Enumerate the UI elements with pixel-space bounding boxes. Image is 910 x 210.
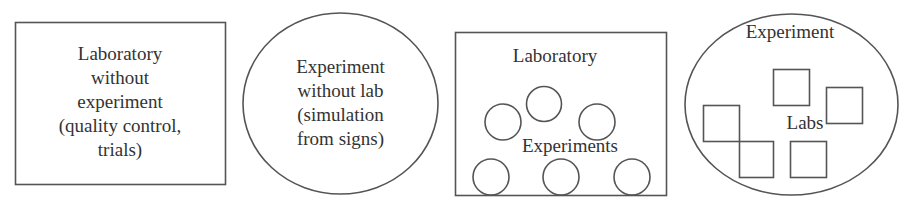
label-line: trials) xyxy=(15,138,225,162)
label-line: (quality control, xyxy=(15,114,225,138)
experiments-label: Experiments xyxy=(505,134,635,158)
experiment-circle xyxy=(527,87,562,122)
labs-label: Labs xyxy=(770,111,840,135)
label-line: (simulation xyxy=(243,103,438,127)
experiment-circle xyxy=(614,159,650,195)
lab-square xyxy=(774,70,810,106)
experiment-circle xyxy=(543,159,579,195)
lab-without-experiment-label: Laboratory without experiment (quality c… xyxy=(15,42,225,162)
label-line: without lab xyxy=(243,79,438,103)
label-line: Laboratory xyxy=(15,42,225,66)
laboratory-label: Laboratory xyxy=(500,44,610,68)
lab-square xyxy=(704,106,740,142)
label-line: experiment xyxy=(15,90,225,114)
label-line: from signs) xyxy=(243,127,438,151)
experiment-circle xyxy=(473,159,509,195)
label-line: without xyxy=(15,66,225,90)
label-line: Experiment xyxy=(243,55,438,79)
lab-square xyxy=(740,142,774,178)
experiment-without-lab-label: Experiment without lab (simulation from … xyxy=(243,55,438,151)
lab-square xyxy=(791,142,827,178)
experiment-label: Experiment xyxy=(730,20,850,44)
